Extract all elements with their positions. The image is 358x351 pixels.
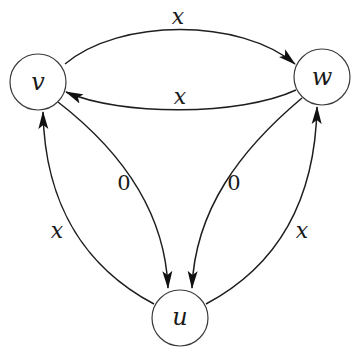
node-w: w (294, 49, 350, 105)
edge-u-to-v (43, 112, 154, 304)
node-v-label: v (31, 68, 45, 96)
edge-label-w-to-u: 0 (227, 171, 240, 195)
edge-label-w-to-v: x (174, 84, 187, 109)
node-u: u (152, 290, 208, 346)
node-u-label: u (172, 303, 187, 331)
edge-label-u-to-w: x (296, 218, 309, 243)
edge-label-u-to-v: x (51, 218, 64, 243)
graph-diagram: v w u x x 0 0 x x (0, 0, 358, 351)
edge-v-to-u (58, 102, 168, 288)
edge-label-v-to-u: 0 (117, 171, 130, 195)
edge-v-to-w (65, 30, 295, 65)
edge-w-to-u (192, 98, 302, 288)
edge-label-v-to-w: x (172, 4, 185, 29)
node-v: v (10, 54, 66, 110)
node-w-label: w (312, 63, 333, 91)
